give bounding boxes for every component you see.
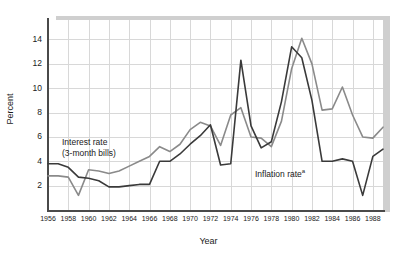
annotation-inflation-text: Inflation rate <box>255 169 302 179</box>
annotation-inflation-rate: Inflation ratea <box>255 166 305 179</box>
annotation-interest-rate: Interest rate (3-month bills) <box>62 137 116 158</box>
series-line-inflation-rate <box>48 38 383 195</box>
chart-figure: 2468101214 19561958196019621964196619681… <box>0 0 417 259</box>
series-lines <box>0 0 417 259</box>
series-line-interest-rate-3-month-bills <box>48 47 383 196</box>
annotation-inflation-superscript: a <box>302 168 305 174</box>
annotation-interest-line1: Interest rate <box>62 137 116 148</box>
annotation-interest-line2: (3-month bills) <box>62 148 116 159</box>
